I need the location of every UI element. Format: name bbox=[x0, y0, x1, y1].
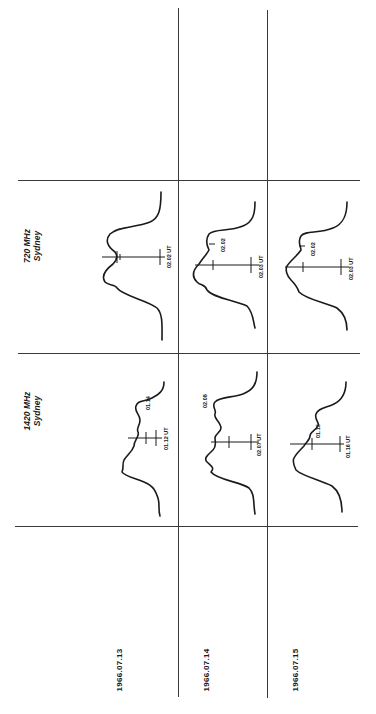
ut-time-label: 02.03 UT bbox=[258, 255, 264, 278]
scan-curve bbox=[293, 382, 346, 512]
row-label-1420-site: Sydney bbox=[32, 376, 42, 446]
date-label-3: 1966.07.15 bbox=[291, 640, 301, 700]
row-label-720-site: Sydney bbox=[32, 211, 42, 281]
peak-time-label: 02.02 bbox=[220, 238, 226, 252]
row-label-720: 720 MHz Sydney bbox=[22, 211, 44, 281]
row-label-720-freq: 720 MHz bbox=[22, 211, 32, 281]
date-label-1: 1966.07.13 bbox=[115, 640, 125, 700]
grid-line-col2 bbox=[267, 10, 268, 698]
peak-time-label: 02.02 bbox=[310, 242, 316, 256]
peak-time-label: 02.08 bbox=[202, 394, 208, 408]
scan-curve bbox=[206, 372, 257, 514]
ut-time-label: 02.03 UT bbox=[348, 257, 354, 280]
ut-time-label: 02.07 UT bbox=[256, 433, 262, 456]
grid-line-middle bbox=[18, 353, 360, 354]
scan-curve bbox=[103, 192, 162, 340]
grid-line-top bbox=[18, 180, 360, 181]
panel-720-1966-07-14: 02.02 02.03 UT bbox=[185, 200, 265, 340]
grid-line-col1 bbox=[178, 8, 179, 697]
panel-720-1966-07-13: 02.02 UT bbox=[95, 190, 175, 350]
panel-1420-1966-07-15: 01.15 01.16 UT bbox=[280, 380, 360, 520]
peak-time-label: 01.15 bbox=[315, 424, 321, 438]
date-label-2: 1966.07.14 bbox=[202, 640, 212, 700]
panel-1420-1966-07-13: 01.14 01.12 UT bbox=[100, 380, 180, 520]
ut-time-label: 01.12 UT bbox=[163, 427, 169, 450]
row-label-1420: 1420 MHz Sydney bbox=[22, 376, 44, 446]
panel-1420-1966-07-14: 02.08 02.07 UT bbox=[185, 370, 265, 520]
ut-time-label: 02.02 UT bbox=[166, 245, 172, 268]
scan-curve bbox=[286, 202, 347, 330]
peak-time-label: 01.14 bbox=[145, 395, 151, 410]
scan-curve bbox=[122, 382, 164, 516]
ut-time-label: 01.16 UT bbox=[345, 435, 351, 458]
grid-line-bottom bbox=[15, 526, 358, 527]
row-label-1420-freq: 1420 MHz bbox=[22, 376, 32, 446]
panel-720-1966-07-15: 02.02 02.03 UT bbox=[275, 200, 355, 340]
rotated-scan-figure: 720 MHz Sydney 1420 MHz Sydney 1966.07.1… bbox=[0, 0, 376, 714]
